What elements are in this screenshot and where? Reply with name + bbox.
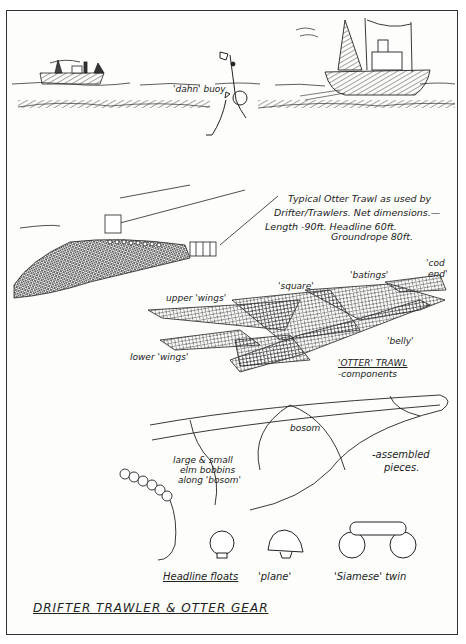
headline-float-icon <box>210 531 234 558</box>
illustration-artwork <box>0 0 466 644</box>
belly-label: 'belly' <box>387 336 414 346</box>
siamese-twin-label: 'Siamese' twin <box>334 571 406 583</box>
assembled-label-1: -assembled <box>372 449 430 461</box>
cod-end-label-1: 'cod <box>426 258 445 268</box>
components-subheading: -components <box>338 369 397 379</box>
illustration-title: DRIFTER TRAWLER & OTTER GEAR <box>33 601 268 615</box>
upper-wings-label: upper 'wings' <box>166 293 226 303</box>
otter-trawl-heading: 'OTTER' TRAWL <box>338 358 408 368</box>
siamese-twin-float-icon <box>339 522 416 558</box>
assembled-label-2: pieces. <box>384 462 419 474</box>
plane-float-label: 'plane' <box>258 571 291 583</box>
caption-line-2: Drifter/Trawlers. Net dimensions.— <box>274 208 440 219</box>
bobbins-label-3: along 'bosom' <box>178 475 241 485</box>
plane-float-icon <box>268 530 303 558</box>
lower-wings-label: lower 'wings' <box>130 352 188 362</box>
headline-floats-label: Headline floats <box>163 571 238 583</box>
trawler-ship-icon <box>296 18 430 100</box>
caption-line-1: Typical Otter Trawl as used by <box>288 194 431 205</box>
dahn-buoy-label: 'dahn' buoy <box>173 84 226 94</box>
towed-trawl-net <box>14 185 278 298</box>
drifter-ship-icon <box>40 60 104 84</box>
square-label: 'square' <box>278 281 314 291</box>
elm-bobbins-icon <box>120 469 176 560</box>
batings-label: 'batings' <box>350 270 388 280</box>
caption-line-4: Groundrope 80ft. <box>331 232 413 243</box>
bobbins-label-2: elm bobbins <box>180 465 235 475</box>
cod-end-label-2: end' <box>428 269 447 279</box>
bosom-label: bosom <box>290 423 320 433</box>
bobbins-label-1: large & small <box>173 455 233 465</box>
